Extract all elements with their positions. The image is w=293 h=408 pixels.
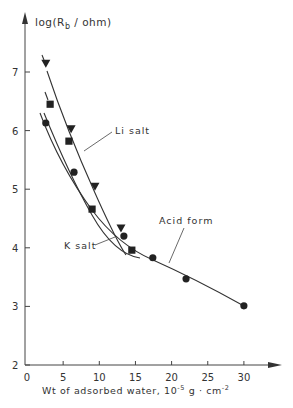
k-salt-leader — [95, 237, 115, 245]
k-salt-label: K salt — [64, 240, 96, 251]
y-axis-arrow-icon — [22, 12, 28, 24]
y-tick-label: 4 — [12, 243, 18, 254]
y-axis-label: log(Rb / ohm) — [35, 16, 112, 31]
x-tick-label: 0 — [24, 372, 30, 383]
y-tick-label: 5 — [12, 184, 18, 195]
k-salt-curve-upper — [45, 92, 48, 100]
chart: 234567 051015202530 log(Rb / ohm) Wt of … — [0, 0, 293, 408]
acid-form-point — [182, 275, 189, 282]
li-salt-point — [116, 224, 125, 232]
annotations: Li salt K salt Acid form — [64, 125, 213, 263]
k-salt-point — [65, 138, 72, 145]
acid-form-point — [149, 254, 156, 261]
x-ticks: 051015202530 — [24, 361, 250, 383]
acid-form-point — [42, 119, 49, 126]
x-axis-arrow-icon — [268, 362, 282, 368]
x-tick-label: 15 — [129, 372, 142, 383]
y-tick-label: 3 — [12, 301, 18, 312]
li-salt-curve — [47, 71, 126, 255]
li-salt-leader — [84, 132, 112, 151]
k-salt-point — [47, 101, 54, 108]
y-ticks: 234567 — [12, 67, 30, 371]
y-tick-label: 6 — [12, 126, 18, 137]
axes — [25, 20, 275, 365]
li-salt-label: Li salt — [115, 125, 150, 136]
acid-form-label: Acid form — [159, 215, 213, 226]
y-tick-label: 2 — [12, 360, 18, 371]
acid-form-point — [70, 169, 77, 176]
x-axis-label: Wt of adsorbed water, 10-5 g · cm-2 — [42, 384, 230, 396]
x-tick-label: 25 — [201, 372, 214, 383]
acid-form-point — [120, 232, 127, 239]
li-salt-point — [41, 60, 50, 68]
k-salt-point — [88, 206, 95, 213]
k-salt-point — [128, 247, 135, 254]
x-tick-label: 10 — [93, 372, 106, 383]
x-tick-label: 20 — [165, 372, 178, 383]
x-tick-label: 30 — [238, 372, 251, 383]
y-tick-label: 7 — [12, 67, 18, 78]
curves — [40, 55, 244, 306]
acid-form-point — [240, 302, 247, 309]
x-tick-label: 5 — [60, 372, 66, 383]
data-markers — [41, 60, 247, 310]
acid-form-leader — [169, 228, 184, 263]
li-salt-curve-upper — [42, 55, 44, 60]
